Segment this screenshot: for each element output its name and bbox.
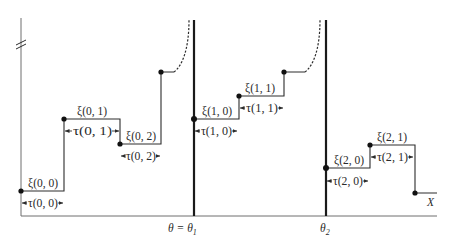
label-xi21: ξ(2, 1): [377, 131, 407, 144]
label-xi20: ξ(2, 0): [334, 154, 364, 167]
label-xi00: ξ(0, 0): [28, 177, 58, 190]
label-tau21: τ(2, 1): [377, 151, 408, 164]
label-x-axis: X: [426, 196, 435, 208]
label-tau02: τ(0, 2): [126, 150, 156, 163]
label-xi10: ξ(1, 0): [202, 105, 232, 118]
label-tau11: τ(1, 1): [246, 102, 278, 115]
label-theta2: θ2: [320, 222, 330, 237]
label-xi11: ξ(1, 1): [245, 82, 275, 95]
label-tau10: τ(1, 0): [201, 125, 232, 138]
label-theta1: θ = θ1: [168, 222, 197, 237]
label-xi02: ξ(0, 2): [126, 130, 156, 143]
label-tau00: τ(0, 0): [28, 197, 58, 210]
label-xi01: ξ(0, 1): [77, 105, 107, 118]
label-tau01: τ(0, 1): [73, 125, 112, 138]
label-tau20: τ(2, 0): [333, 175, 363, 188]
step-process-diagram: ξ(0, 0) ξ(0, 1) ξ(0, 2) ξ(1, 0) ξ(1, 1) …: [0, 0, 449, 248]
axes: [16, 18, 437, 216]
